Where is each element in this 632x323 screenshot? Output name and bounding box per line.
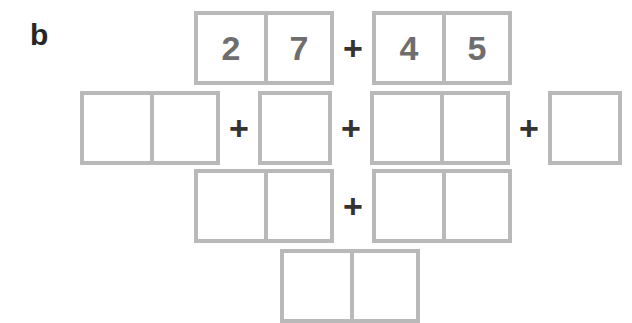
empty-cell[interactable]	[84, 95, 150, 161]
empty-cell[interactable]	[264, 173, 330, 239]
empty-cell[interactable]	[440, 95, 506, 161]
plus-operator: +	[332, 95, 370, 161]
plus-operator: +	[220, 95, 258, 161]
empty-cell[interactable]	[150, 95, 216, 161]
empty-cell[interactable]	[374, 95, 440, 161]
partial-sums-row: +	[194, 171, 512, 241]
empty-cell[interactable]	[262, 95, 328, 161]
one-cell-box[interactable]	[548, 91, 622, 165]
decomposition-row: +++	[80, 93, 622, 163]
empty-cell[interactable]	[198, 173, 264, 239]
two-cell-box[interactable]	[194, 169, 334, 243]
plus-operator: +	[334, 15, 372, 81]
figure-canvas: b 27+45 +++ +	[0, 0, 632, 323]
two-cell-box[interactable]	[372, 169, 512, 243]
empty-cell[interactable]	[376, 173, 442, 239]
two-cell-box[interactable]: 27	[194, 11, 334, 85]
digit-cell[interactable]: 4	[376, 15, 442, 81]
one-cell-box[interactable]	[258, 91, 332, 165]
panel-label-b: b	[30, 20, 48, 50]
plus-operator: +	[334, 173, 372, 239]
empty-cell[interactable]	[284, 253, 350, 319]
two-cell-box[interactable]	[80, 91, 220, 165]
digit-cell[interactable]: 5	[442, 15, 508, 81]
problem-row: 27+45	[194, 13, 512, 83]
answer-row	[280, 251, 420, 321]
plus-operator: +	[510, 95, 548, 161]
two-cell-box[interactable]	[370, 91, 510, 165]
empty-cell[interactable]	[552, 95, 618, 161]
empty-cell[interactable]	[350, 253, 416, 319]
digit-cell[interactable]: 2	[198, 15, 264, 81]
two-cell-box[interactable]	[280, 249, 420, 323]
digit-cell[interactable]: 7	[264, 15, 330, 81]
empty-cell[interactable]	[442, 173, 508, 239]
two-cell-box[interactable]: 45	[372, 11, 512, 85]
